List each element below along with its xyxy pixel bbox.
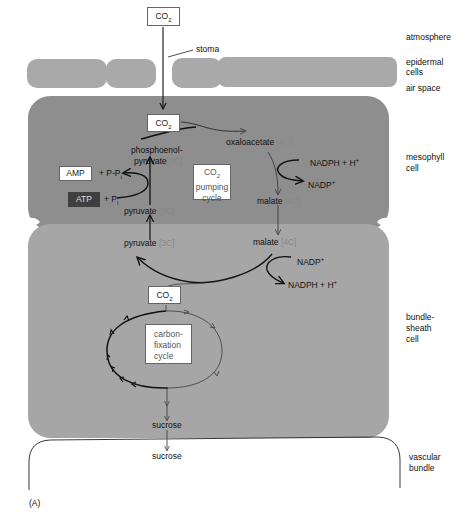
sucrose-bundle-label: sucrose <box>152 420 182 431</box>
co2-subscript: 2 <box>168 124 171 130</box>
figure-label: (A) <box>29 498 40 509</box>
amp-box: AMP <box>59 166 92 181</box>
nadp-bundle-label: NADP+ <box>297 254 324 268</box>
nadph-text: NADPH + H <box>288 280 334 290</box>
stoma-pointer <box>168 50 193 57</box>
nadph-mesophyll-label: NADPH + H+ <box>310 155 359 169</box>
malate-carbon-count: [4C] <box>281 237 297 247</box>
pep-name: pyruvate <box>134 156 167 166</box>
pumping-co2-sub: 2 <box>217 173 220 179</box>
fixation-line1: carbon- <box>154 329 191 340</box>
stoma-label: stoma <box>196 44 219 55</box>
pumping-line2: pumping <box>194 182 230 193</box>
ppi-label: + P-Pi <box>99 168 122 183</box>
pyruvate-carbon-count: [3C] <box>159 206 175 216</box>
fixation-line2: fixation <box>154 340 191 351</box>
co2-pumping-cycle-box: CO2 pumping cycle <box>193 164 231 200</box>
ppi-subscript: i <box>121 174 122 180</box>
plus-sup: + <box>356 157 360 163</box>
oxaloacetate-name: oxaloacetate <box>226 137 274 147</box>
zone-air-space-label: air space <box>406 83 441 94</box>
zone-epidermal-label-2: cells <box>406 67 423 78</box>
pep-carbon-count: [3C] <box>167 156 183 166</box>
zone-mesophyll-label: mesophyll <box>406 152 444 163</box>
epidermal-cells <box>27 57 397 88</box>
pi-label: + Pi <box>104 194 118 209</box>
pumping-line3: cycle <box>194 193 230 204</box>
nadph-bundle-label: NADPH + H+ <box>288 277 337 291</box>
malate-bundle-label: malate [4C] <box>253 237 296 248</box>
nadp-text: NADP <box>308 180 332 190</box>
oxaloacetate-label: oxaloacetate [4C] <box>226 137 292 148</box>
bundle-sheath-cell <box>28 224 389 438</box>
nadp-mesophyll-label: NADP+ <box>308 177 335 191</box>
co2-subscript: 2 <box>169 296 172 302</box>
vascular-bundle <box>29 437 400 490</box>
co2-subscript: 2 <box>168 17 171 23</box>
pyruvate-name: pyruvate <box>124 206 157 216</box>
ppi-text: + P-P <box>99 168 121 178</box>
co2-label: CO <box>155 118 168 128</box>
pyruvate-name: pyruvate <box>124 238 157 248</box>
pumping-co2: CO <box>204 167 217 177</box>
zone-atmosphere-label: atmosphere <box>406 32 451 43</box>
plus-sup: + <box>332 179 336 185</box>
fixation-line3: cycle <box>154 351 191 362</box>
malate-name: malate <box>253 237 279 247</box>
nadph-text: NADPH + H <box>310 158 356 168</box>
oxaloacetate-carbon-count: [4C] <box>277 137 293 147</box>
pyruvate-bundle-label: pyruvate [3C] <box>124 238 175 249</box>
zone-bundle-sheath-label-2: sheath <box>406 323 432 334</box>
zone-vascular-label-2: bundle <box>409 463 435 474</box>
pep-label-line1: phosphoenol- <box>131 145 183 156</box>
pyruvate-mesophyll-label: pyruvate [3C] <box>124 206 175 217</box>
zone-bundle-sheath-label-3: cell <box>406 334 419 345</box>
co2-atmosphere-box: CO2 <box>147 7 180 26</box>
pi-text: + P <box>104 194 117 204</box>
plus-sup: + <box>334 279 338 285</box>
pi-subscript: i <box>117 200 118 206</box>
co2-label: CO <box>155 11 168 21</box>
malate-mesophyll-label: malate [4C] <box>257 196 300 207</box>
pyruvate-carbon-count: [3C] <box>159 238 175 248</box>
zone-vascular-label: vascular <box>409 452 441 463</box>
zone-mesophyll-label-2: cell <box>406 163 419 174</box>
co2-bundle-box: CO2 <box>148 286 181 304</box>
malate-name: malate <box>257 196 283 206</box>
carbon-fixation-cycle-box: carbon- fixation cycle <box>145 324 192 364</box>
zone-bundle-sheath-label: bundle- <box>406 312 434 323</box>
co2-label: CO <box>156 290 169 300</box>
co2-mesophyll-box: CO2 <box>147 114 180 132</box>
pumping-line1: CO2 <box>194 167 230 182</box>
diagram-canvas <box>0 0 475 524</box>
malate-carbon-count: [4C] <box>285 196 301 206</box>
plus-sup: + <box>321 256 325 262</box>
pep-label-line2: pyruvate[3C] <box>134 156 182 167</box>
atp-box: ATP <box>68 192 100 207</box>
sucrose-vascular-label: sucrose <box>152 451 182 462</box>
nadp-text: NADP <box>297 257 321 267</box>
